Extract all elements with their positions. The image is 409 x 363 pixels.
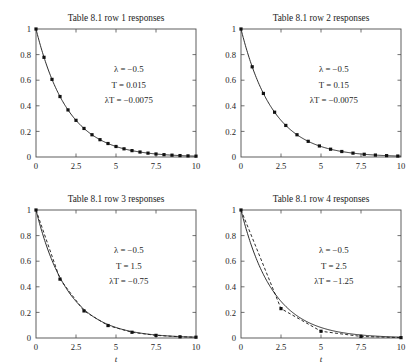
continuous-response-curve bbox=[36, 210, 196, 337]
x-tick-label: 7.5 bbox=[356, 161, 367, 171]
y-tick-label: 0 bbox=[232, 152, 236, 162]
x-tick-label: 2.5 bbox=[71, 342, 82, 352]
data-point-marker bbox=[399, 336, 402, 339]
data-point-marker bbox=[307, 140, 310, 143]
data-point-marker bbox=[66, 108, 69, 111]
plot-title: Table 8.1 row 2 responses bbox=[273, 13, 370, 23]
data-point-marker bbox=[74, 119, 77, 122]
data-point-marker bbox=[58, 278, 61, 281]
data-point-marker bbox=[42, 56, 45, 59]
data-point-marker bbox=[318, 144, 321, 147]
data-point-marker bbox=[170, 154, 173, 157]
y-tick-label: 0.8 bbox=[225, 50, 236, 60]
x-tick-label: 2.5 bbox=[71, 161, 82, 171]
data-point-marker bbox=[58, 95, 61, 98]
data-point-marker bbox=[154, 152, 157, 155]
y-tick-label: 0.4 bbox=[225, 282, 236, 292]
x-tick-label: 7.5 bbox=[151, 161, 162, 171]
data-point-marker bbox=[374, 153, 377, 156]
data-point-marker bbox=[98, 138, 101, 141]
y-tick-label: 0 bbox=[27, 152, 31, 162]
data-point-marker bbox=[82, 127, 85, 130]
continuous-response-curve bbox=[241, 210, 401, 337]
data-point-marker bbox=[194, 155, 197, 158]
data-point-marker bbox=[154, 334, 157, 337]
plot-panel-1: Table 8.1 row 1 responses02.557.51000.20… bbox=[0, 0, 204, 181]
y-tick-label: 1 bbox=[27, 24, 31, 34]
data-point-marker bbox=[194, 336, 197, 339]
x-tick-label: 2.5 bbox=[276, 161, 287, 171]
y-tick-label: 0.4 bbox=[20, 282, 31, 292]
y-tick-label: 0.2 bbox=[20, 308, 31, 318]
data-point-marker bbox=[239, 208, 242, 211]
y-tick-label: 0.6 bbox=[20, 75, 31, 85]
data-point-marker bbox=[396, 154, 399, 157]
data-point-marker bbox=[178, 154, 181, 157]
data-point-marker bbox=[106, 324, 109, 327]
parameter-annotation: λT = −0.0075 bbox=[310, 95, 359, 105]
parameter-annotation: λT = −0.0075 bbox=[105, 95, 154, 105]
data-point-marker bbox=[340, 150, 343, 153]
x-tick-label: 0 bbox=[239, 342, 243, 352]
y-tick-label: 0.2 bbox=[20, 127, 31, 137]
x-tick-label: 2.5 bbox=[276, 342, 287, 352]
discrete-response-curve bbox=[241, 210, 401, 338]
plot-title: Table 8.1 row 3 responses bbox=[68, 194, 165, 204]
data-point-marker bbox=[186, 154, 189, 157]
y-tick-label: 0.8 bbox=[20, 231, 31, 241]
data-point-marker bbox=[34, 27, 37, 30]
data-point-marker bbox=[114, 145, 117, 148]
x-tick-label: 10 bbox=[192, 161, 201, 171]
y-tick-label: 0.2 bbox=[225, 308, 236, 318]
x-tick-label: 10 bbox=[397, 342, 406, 352]
data-point-marker bbox=[34, 208, 37, 211]
data-point-marker bbox=[162, 153, 165, 156]
data-point-marker bbox=[359, 335, 362, 338]
x-tick-label: 10 bbox=[192, 342, 201, 352]
parameter-annotation: λ = −0.5 bbox=[319, 245, 349, 255]
plot-panel-2: Table 8.1 row 2 responses02.557.51000.20… bbox=[205, 0, 409, 181]
data-point-marker bbox=[262, 92, 265, 95]
data-point-marker bbox=[363, 153, 366, 156]
x-tick-label: 7.5 bbox=[151, 342, 162, 352]
data-point-marker bbox=[122, 147, 125, 150]
plot-panel-3: Table 8.1 row 3 responses02.557.51000.20… bbox=[0, 181, 204, 362]
x-tick-label: 5 bbox=[319, 342, 323, 352]
data-point-marker bbox=[178, 335, 181, 338]
data-point-marker bbox=[146, 152, 149, 155]
x-tick-label: 0 bbox=[34, 161, 38, 171]
plot-title: Table 8.1 row 1 responses bbox=[68, 13, 165, 23]
x-axis-label: t bbox=[320, 354, 323, 362]
data-point-marker bbox=[82, 309, 85, 312]
parameter-annotation: λ = −0.5 bbox=[114, 64, 144, 74]
data-point-marker bbox=[284, 124, 287, 127]
data-point-marker bbox=[106, 142, 109, 145]
data-point-marker bbox=[50, 78, 53, 81]
x-tick-label: 7.5 bbox=[356, 342, 367, 352]
data-point-marker bbox=[251, 65, 254, 68]
data-point-marker bbox=[239, 27, 242, 30]
x-axis-label: t bbox=[115, 354, 118, 362]
x-tick-label: 10 bbox=[397, 161, 406, 171]
y-tick-label: 0 bbox=[232, 333, 236, 343]
y-tick-label: 0.4 bbox=[225, 101, 236, 111]
y-tick-label: 0.4 bbox=[20, 101, 31, 111]
parameter-annotation: λ = −0.5 bbox=[114, 245, 144, 255]
axis-box bbox=[241, 210, 401, 338]
data-point-marker bbox=[138, 150, 141, 153]
data-point-marker bbox=[130, 149, 133, 152]
parameter-annotation: T = 0.15 bbox=[319, 80, 350, 90]
y-tick-label: 0 bbox=[27, 333, 31, 343]
data-point-marker bbox=[329, 148, 332, 151]
data-point-marker bbox=[385, 154, 388, 157]
parameter-annotation: λT = −0.75 bbox=[109, 276, 149, 286]
y-tick-label: 0.6 bbox=[225, 256, 236, 266]
x-tick-label: 5 bbox=[114, 161, 118, 171]
data-point-marker bbox=[279, 307, 282, 310]
parameter-annotation: T = 1.5 bbox=[116, 261, 142, 271]
data-point-marker bbox=[351, 152, 354, 155]
x-tick-label: 0 bbox=[239, 161, 243, 171]
y-tick-label: 0.8 bbox=[225, 231, 236, 241]
plot-title: Table 8.1 row 4 responses bbox=[273, 194, 370, 204]
data-point-marker bbox=[273, 111, 276, 114]
